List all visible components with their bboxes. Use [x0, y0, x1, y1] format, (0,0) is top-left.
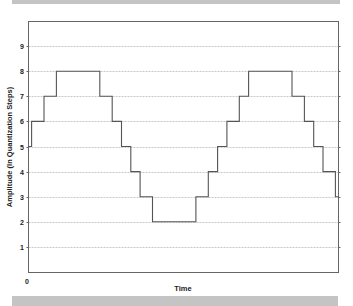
y-tick-label-1: 1: [20, 244, 24, 251]
gridlines: [27, 47, 341, 248]
y-tick-label-5: 5: [20, 144, 24, 151]
y-tick-label-4: 4: [20, 169, 24, 176]
x-tick-label-0: 0: [25, 278, 29, 285]
x-axis-title: Time: [174, 284, 191, 293]
y-tick-label-7: 7: [20, 93, 24, 100]
step-chart: 123456789 0 Time Amplitude (In Quantizat…: [0, 0, 353, 306]
y-tick-label-9: 9: [20, 43, 24, 50]
y-tick-label-3: 3: [20, 194, 24, 201]
y-axis-title: Amplitude (In Quantization Steps): [5, 86, 14, 207]
y-tick-label-6: 6: [20, 118, 24, 125]
y-tick-label-8: 8: [20, 68, 24, 75]
y-tick-label-2: 2: [20, 219, 24, 226]
quantized-signal-line: [29, 71, 339, 222]
y-tick-labels: 123456789: [20, 43, 24, 251]
